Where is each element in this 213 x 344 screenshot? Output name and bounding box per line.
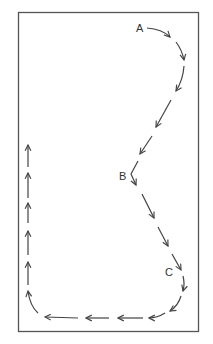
path-arrows (28, 28, 184, 318)
path-diagram: A B C (0, 0, 213, 344)
label-c: C (165, 266, 173, 278)
label-a: A (136, 22, 144, 34)
arrow-icon (170, 296, 181, 311)
arrow-icon (28, 291, 38, 313)
arrow-icon (147, 28, 170, 37)
arrow-icon (142, 194, 154, 218)
arrow-icon (158, 227, 168, 246)
arrow-icon (156, 100, 171, 127)
arrow-icon (176, 42, 184, 60)
arrow-icon (131, 161, 138, 185)
arrow-icon (45, 317, 78, 318)
diagram-frame (19, 13, 199, 332)
arrow-icon (149, 313, 165, 318)
arrow-icon (176, 66, 184, 91)
arrow-icon (172, 254, 181, 270)
arrow-icon (183, 276, 184, 291)
arrow-icon (140, 136, 152, 154)
label-b: B (119, 170, 126, 182)
